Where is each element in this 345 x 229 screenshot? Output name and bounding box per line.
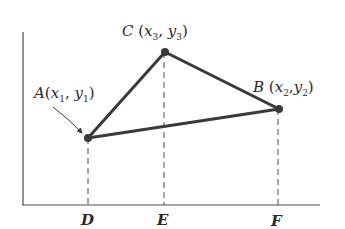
- label-foot-E: E: [156, 211, 169, 229]
- arrow-icon: [53, 107, 82, 133]
- label-point-C: C (x3, y3): [122, 22, 188, 42]
- label-foot-D: D: [80, 211, 94, 229]
- label-point-B: B (x2,y2): [252, 78, 314, 98]
- vertex-B: [275, 105, 283, 113]
- label-foot-F: F: [270, 212, 283, 229]
- vertex-A: [84, 134, 92, 142]
- side-AB: [88, 109, 279, 138]
- side-AC: [88, 52, 165, 138]
- triangle-diagram: A(x1, y1) C (x3, y3) B (x2,y2) D E F: [0, 0, 345, 229]
- vertex-C: [161, 48, 169, 56]
- label-point-A: A(x1, y1): [32, 84, 95, 104]
